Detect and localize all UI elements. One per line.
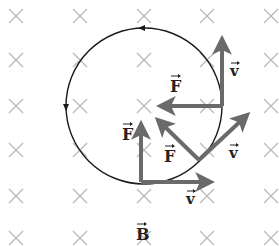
field-into-page-icon (9, 231, 23, 245)
field-into-page-icon (200, 231, 214, 245)
velocity-vector-arrow (199, 117, 245, 160)
force-label-lower-right: F (164, 144, 176, 166)
orbit-direction-arrow-icon (138, 25, 145, 31)
force-label-bottom: F (122, 122, 134, 144)
field-into-page-icon (264, 143, 278, 157)
field-into-page-icon (9, 9, 23, 23)
svg-text:v: v (229, 62, 240, 80)
svg-text:F: F (170, 77, 182, 96)
field-into-page-icon (9, 53, 23, 67)
field-into-page-icon (200, 9, 214, 23)
field-into-page-icon (9, 99, 23, 113)
velocity-label-right: v (229, 61, 240, 80)
magnetic-force-diagram: FvFvFvB (0, 0, 279, 246)
force-label-right: F (170, 74, 182, 96)
velocity-label-bottom: v (185, 189, 196, 208)
field-into-page-icon (137, 53, 151, 67)
field-into-page-icon (264, 99, 278, 113)
field-into-page-icon (73, 99, 87, 113)
svg-text:F: F (164, 147, 176, 166)
field-into-page-icon (264, 53, 278, 67)
magnetic-field-marks (9, 9, 278, 245)
orbit-direction-arrow-icon (63, 104, 69, 111)
field-into-page-icon (264, 189, 278, 203)
field-into-page-icon (200, 189, 214, 203)
field-into-page-icon (73, 189, 87, 203)
field-into-page-icon (264, 231, 278, 245)
magnetic-field-label: B (136, 222, 150, 244)
field-into-page-icon (137, 99, 151, 113)
svg-text:B: B (136, 225, 150, 244)
svg-text:v: v (228, 144, 239, 162)
svg-text:F: F (122, 125, 134, 144)
field-into-page-icon (9, 143, 23, 157)
velocity-label-lower-right: v (228, 143, 239, 162)
field-into-page-icon (9, 189, 23, 203)
field-into-page-icon (73, 231, 87, 245)
field-into-page-icon (137, 9, 151, 23)
field-into-page-icon (137, 189, 151, 203)
svg-text:v: v (185, 190, 196, 208)
vector-pair-right (163, 42, 222, 106)
field-into-page-icon (264, 9, 278, 23)
field-into-page-icon (73, 9, 87, 23)
